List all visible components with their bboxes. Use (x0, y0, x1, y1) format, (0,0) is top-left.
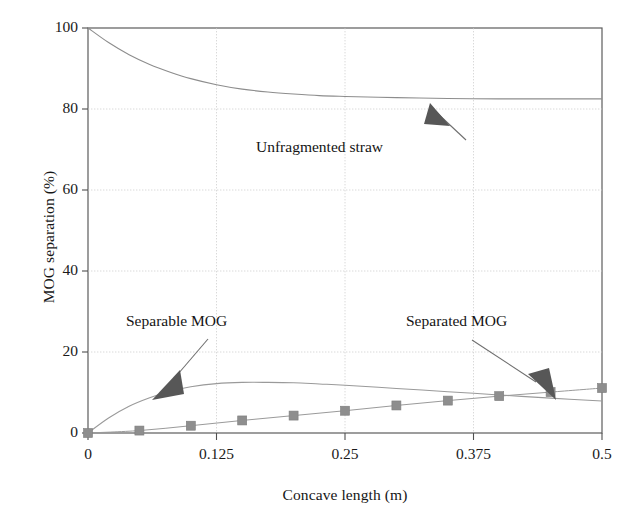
x-tick-label: 0 (53, 445, 123, 463)
vertical-gridlines (217, 28, 474, 433)
x-tick-label: 0.5 (567, 445, 637, 463)
data-point-marker (495, 392, 504, 401)
arrow-line-separated-mog (472, 340, 536, 382)
y-axis-ticks (82, 28, 88, 433)
chart-figure: 020406080100 00.1250.250.3750.5 MOG sepa… (0, 0, 638, 522)
arrow-head-unfragmented-straw (424, 103, 450, 126)
arrow-head-separated-mog (528, 368, 556, 400)
arrow-line-separable-mog (178, 339, 208, 374)
data-point-marker (238, 416, 247, 425)
y-axis-title: MOG separation (%) (40, 132, 58, 342)
annotation-label-separable-mog: Separable MOG (126, 312, 227, 330)
data-point-marker (341, 406, 350, 415)
y-tick-label: 100 (34, 18, 78, 36)
arrow-head-separable-mog (152, 370, 184, 400)
x-axis-ticks (88, 433, 602, 440)
x-tick-label: 0.25 (310, 445, 380, 463)
annotation-label-separated-mog: Separated MOG (406, 312, 507, 330)
data-point-marker (598, 384, 607, 393)
y-tick-label: 20 (34, 342, 78, 360)
y-tick-label: 80 (34, 99, 78, 117)
x-axis-title: Concave length (m) (240, 486, 450, 504)
y-tick-label: 0 (34, 423, 78, 441)
x-tick-label: 0.125 (182, 445, 252, 463)
data-point-marker (392, 401, 401, 410)
data-point-marker (443, 396, 452, 405)
data-point-marker (84, 429, 93, 438)
x-tick-label: 0.375 (439, 445, 509, 463)
annotation-label-unfragmented-straw: Unfragmented straw (256, 138, 383, 156)
data-point-marker (289, 411, 298, 420)
data-point-marker (135, 426, 144, 435)
data-point-marker (186, 421, 195, 430)
plot-canvas (0, 0, 638, 522)
